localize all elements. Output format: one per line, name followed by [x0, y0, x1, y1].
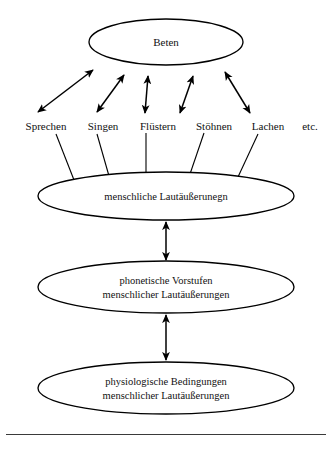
- ellipse-menschliche-lautaeusserungen-line-1: menschliche Lautäußerunegn: [104, 191, 228, 202]
- ellipse-physiologische-bedingungen[interactable]: physiologische Bedingungenmenschlicher L…: [38, 362, 294, 414]
- ellipse-phonetische-vorstufen-line-1: phonetische Vorstufen: [119, 275, 213, 286]
- arrow-fluestern: [145, 76, 148, 113]
- stem-sprechen: [56, 134, 74, 180]
- ellipse-phonetische-vorstufen[interactable]: phonetische Vorstufenmenschlicher Lautäu…: [38, 261, 294, 313]
- stem-lachen: [238, 134, 258, 177]
- ellipse-phonetische-vorstufen-shape: [38, 261, 294, 313]
- diagram-canvas: Beten menschliche Lautäußerunegnphonetis…: [0, 0, 332, 449]
- stem-singen: [97, 134, 109, 176]
- term-label-4[interactable]: Stöhnen: [196, 120, 232, 133]
- arrow-singen: [97, 75, 124, 112]
- arrow-lachen: [225, 72, 250, 113]
- ellipse-physiologische-bedingungen-line-2: menschlicher Lautäußerungen: [103, 390, 231, 401]
- term-label-3[interactable]: Flüstern: [140, 120, 176, 133]
- ellipse-menschliche-lautaeusserungen[interactable]: menschliche Lautäußerunegn: [38, 172, 294, 220]
- arrow-sprechen: [38, 70, 93, 112]
- term-label-5[interactable]: Lachen: [252, 120, 284, 133]
- baseline-rule: [6, 434, 326, 435]
- term-label-2[interactable]: Singen: [88, 120, 119, 133]
- ellipse-physiologische-bedingungen-shape: [38, 362, 294, 414]
- term-label-6[interactable]: etc.: [302, 120, 318, 133]
- node-beten[interactable]: Beten: [89, 19, 243, 65]
- fan-arrow-group: [38, 70, 250, 113]
- arrow-stoehnen: [180, 76, 193, 113]
- diagram-figure: Beten menschliche Lautäußerunegnphonetis…: [0, 0, 332, 449]
- stack-node-group: menschliche Lautäußerunegnphonetische Vo…: [38, 172, 294, 414]
- ellipse-phonetische-vorstufen-line-2: menschlicher Lautäußerungen: [103, 289, 231, 300]
- ellipse-physiologische-bedingungen-line-1: physiologische Bedingungen: [105, 376, 227, 387]
- term-label-1[interactable]: Sprechen: [26, 120, 67, 133]
- beten-label: Beten: [153, 36, 179, 48]
- stem-stoehnen: [190, 133, 204, 174]
